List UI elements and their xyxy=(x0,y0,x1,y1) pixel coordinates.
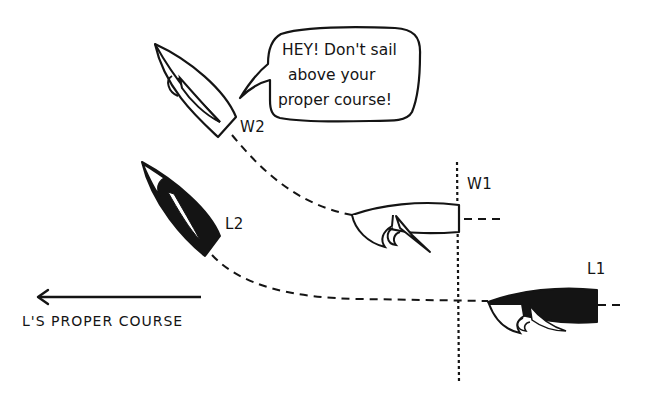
speech-line-3: proper course! xyxy=(278,88,422,113)
path-w2-to-w1 xyxy=(232,135,352,215)
boat-l2 xyxy=(142,162,220,256)
label-l1: L1 xyxy=(587,260,606,278)
label-l2: L2 xyxy=(225,215,244,233)
course-arrow xyxy=(38,290,201,304)
speech-line-1: HEY! Don't sail xyxy=(282,38,422,63)
speech-bubble-text: HEY! Don't sail above your proper course… xyxy=(282,38,422,113)
proper-course-label: L'S PROPER COURSE xyxy=(22,313,183,329)
speech-line-2: above your xyxy=(282,63,422,88)
label-w2: W2 xyxy=(240,118,265,136)
sailing-diagram: W2 L2 W1 L1 HEY! Don't sail above your p… xyxy=(0,0,650,401)
boat-l1 xyxy=(488,289,597,334)
boat-w2 xyxy=(155,44,236,137)
path-l2-to-l1 xyxy=(212,255,488,301)
label-w1: W1 xyxy=(467,175,492,193)
reference-line xyxy=(457,162,459,382)
boat-w1 xyxy=(352,203,459,252)
